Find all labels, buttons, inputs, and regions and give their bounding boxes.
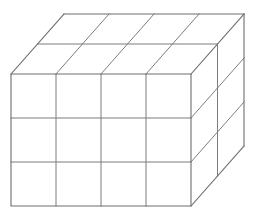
box-diagram-svg — [0, 0, 261, 215]
canvas-background — [0, 0, 261, 215]
figure-container — [0, 0, 261, 215]
